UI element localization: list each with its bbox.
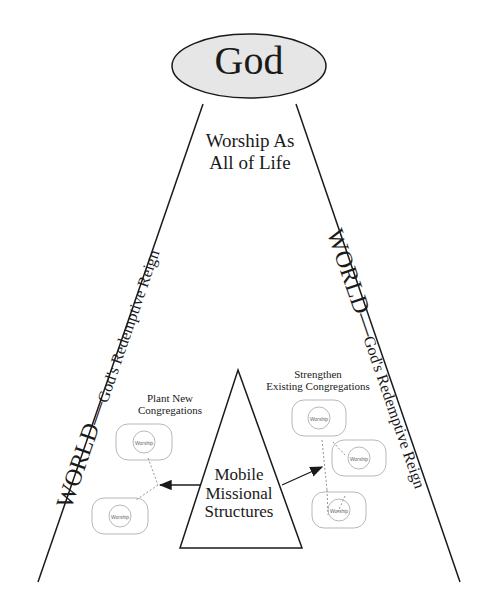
congregation-icon: Worship xyxy=(89,498,151,540)
congregation-icon: Worship xyxy=(113,424,175,466)
congregation-icon: Worship xyxy=(328,440,390,482)
congregation-icon: Worship xyxy=(288,400,350,442)
god-label: God xyxy=(172,40,326,82)
plant-new-congregations-label: Plant New Congregations xyxy=(130,393,210,416)
mobile-missional-structures-label: Mobile Missional Structures xyxy=(198,466,280,522)
worship-label: Worship As All of Life xyxy=(195,130,305,174)
congregation-icon: Worship xyxy=(308,492,370,534)
strengthen-arrow xyxy=(282,467,322,485)
strengthen-congregations-label: Strengthen Existing Congregations xyxy=(258,369,378,392)
